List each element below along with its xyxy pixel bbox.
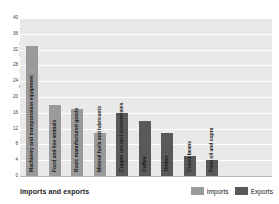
footer-title: Imports and exports (20, 188, 89, 195)
bar-slot: Copper ore and concentrates (116, 18, 128, 176)
bar-label: Basic manufactured goods (74, 108, 79, 172)
bar-label: Mineral fuels and lubricants (97, 106, 102, 172)
legend-item[interactable]: Imports (191, 187, 229, 195)
bar-label: Coffee (142, 156, 147, 172)
y-axis-tick: 8 (6, 142, 18, 147)
bar-label: Food and live animals (52, 120, 57, 172)
bar-slot: Coffee (139, 18, 151, 176)
bar-group: Machinery and transportation equipmentFo… (20, 18, 272, 176)
y-axis-tick: 36 (6, 31, 18, 36)
chart-container: Percentage of total 4036322824201612840 … (0, 0, 279, 204)
y-axis-tick: 12 (6, 126, 18, 131)
bar-slot: Timber (161, 18, 173, 176)
bar-label: Machinery and transportation equipment (29, 75, 34, 172)
bar-label: Timber (164, 155, 169, 172)
x-axis-line (20, 176, 272, 177)
y-axis-tick: 24 (6, 79, 18, 84)
legend-swatch (235, 187, 248, 195)
y-axis-tick: 28 (6, 63, 18, 68)
chart-footer: Imports and exports ImportsExports (0, 180, 279, 204)
legend-swatch (191, 187, 204, 195)
y-axis-tick: 0 (6, 174, 18, 179)
bar-slot: Cocoa beans (184, 18, 196, 176)
legend-item[interactable]: Exports (235, 187, 273, 195)
y-axis-tick-labels: 4036322824201612840 (6, 18, 18, 176)
y-axis-tick: 4 (6, 158, 18, 163)
y-axis-tick: 16 (6, 110, 18, 115)
legend: ImportsExports (191, 187, 273, 195)
y-axis-tick: 32 (6, 47, 18, 52)
y-axis-tick: 40 (6, 16, 18, 21)
bar-label: Copper ore and concentrates (119, 103, 124, 172)
legend-label: Imports (207, 188, 229, 195)
bar-label: Cocoa beans (187, 141, 192, 172)
bar-label: Palm oil and copra (209, 128, 214, 172)
bar-slot: Machinery and transportation equipment (26, 18, 38, 176)
bar-slot: Mineral fuels and lubricants (94, 18, 106, 176)
y-axis-tick: 20 (6, 95, 18, 100)
bar-slot: Food and live animals (49, 18, 61, 176)
bar-slot: Basic manufactured goods (71, 18, 83, 176)
bar-slot: Palm oil and copra (206, 18, 218, 176)
legend-label: Exports (251, 188, 273, 195)
plot-area: Machinery and transportation equipmentFo… (20, 18, 272, 176)
